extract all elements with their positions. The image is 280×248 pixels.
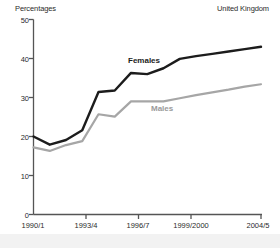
footer-strip xyxy=(0,234,280,248)
series-line-females xyxy=(34,47,262,145)
axis-lines xyxy=(29,20,262,220)
chart-container: Percentages United Kingdom 50 40 30 20 1… xyxy=(0,0,280,248)
plot-area xyxy=(0,0,280,248)
series-line-males xyxy=(34,84,262,151)
